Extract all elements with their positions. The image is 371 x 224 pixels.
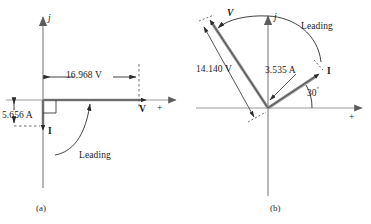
polarity-label-b: + — [349, 112, 354, 122]
vector-label-i-b: I — [327, 66, 331, 76]
dimension-label-current-a: 5.656 A — [2, 110, 33, 120]
tip-dash-v-b — [199, 15, 214, 21]
right-angle-marker-a — [43, 100, 56, 113]
vector-label-v-b: V — [227, 8, 233, 18]
phase-note-a: Leading — [79, 150, 111, 160]
axis-label-j-b: j — [274, 12, 277, 22]
vector-label-i-a: I — [48, 126, 52, 136]
dimension-label-voltage-a: 16.968 V — [66, 70, 102, 80]
panel-a: j 16.968 V 5.656 A I V + Leading (a) — [0, 0, 186, 224]
angle-unit-b: º — [317, 86, 319, 94]
leading-arc-a — [55, 104, 90, 155]
angle-label-b: 30º — [307, 86, 319, 98]
vector-label-v-a: V — [139, 104, 146, 114]
figure-phasor-diagrams: j 16.968 V 5.656 A I V + Leading (a) — [0, 0, 371, 224]
polarity-label-a: + — [157, 103, 162, 113]
panel-b-drawing — [186, 0, 371, 224]
leader-line-i-b — [270, 74, 296, 100]
angle-value-b: 30 — [307, 88, 317, 98]
origin-dash-b — [248, 112, 266, 122]
panel-b: V j Leading 14.140 V 3.535 A I 30º + (b) — [186, 0, 371, 224]
tip-dash-i-b — [314, 60, 323, 70]
dimension-label-current-b: 3.535 A — [265, 65, 296, 75]
axis-label-j-a: j — [48, 13, 51, 23]
caption-b: (b) — [270, 203, 281, 213]
phase-note-b: Leading — [301, 21, 333, 31]
dimension-label-voltage-b: 14.140 V — [196, 64, 232, 74]
caption-a: (a) — [36, 203, 46, 213]
